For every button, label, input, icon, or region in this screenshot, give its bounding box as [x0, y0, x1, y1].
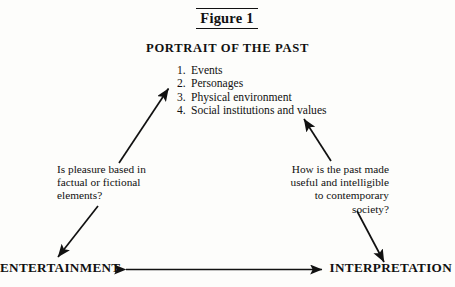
list-item-number: 4. — [177, 104, 191, 117]
caption-rule-top — [196, 8, 258, 9]
list-item-label: Social institutions and values — [191, 104, 327, 117]
figure-title: PORTRAIT OF THE PAST — [0, 41, 455, 56]
figure-diagram: Figure 1 PORTRAIT OF THE PAST 1.Events 2… — [0, 0, 455, 287]
right-question-line-4: society? — [249, 203, 389, 216]
list-item: 4.Social institutions and values — [177, 104, 327, 117]
left-question-line-3: elements? — [57, 189, 146, 202]
arrow-past-to-entertainment — [58, 206, 98, 257]
right-question-line-1: How is the past made — [249, 163, 389, 176]
left-question-line-2: factual or fictional — [57, 176, 146, 189]
arrow-interpretation-to-past — [304, 119, 331, 161]
right-question-line-3: to contemporary — [249, 189, 389, 202]
list-item: 3.Physical environment — [177, 91, 327, 104]
list-item-number: 2. — [177, 77, 191, 90]
list-item-number: 3. — [177, 91, 191, 104]
list-item-label: Personages — [191, 77, 243, 90]
list-item: 1.Events — [177, 64, 327, 77]
left-question-line-1: Is pleasure based in — [57, 163, 146, 176]
right-question-line-2: useful and intelligible — [249, 176, 389, 189]
corner-label-interpretation: INTERPRETATION — [330, 260, 452, 276]
past-elements-list: 1.Events 2.Personages 3.Physical environ… — [177, 64, 327, 118]
list-item-number: 1. — [177, 64, 191, 77]
figure-caption: Figure 1 — [196, 8, 258, 29]
caption-text: Figure 1 — [196, 10, 258, 27]
list-item-label: Physical environment — [191, 91, 292, 104]
list-item: 2.Personages — [177, 77, 327, 90]
arrow-past-to-interpretation — [357, 211, 384, 262]
left-question: Is pleasure based in factual or fictiona… — [57, 163, 146, 203]
caption-rule-bottom — [196, 28, 258, 29]
right-question: How is the past made useful and intellig… — [249, 163, 389, 216]
corner-label-entertainment: ENTERTAINMENT — [0, 260, 120, 276]
list-item-label: Events — [191, 64, 223, 77]
arrow-entertainment-to-past — [119, 89, 169, 164]
